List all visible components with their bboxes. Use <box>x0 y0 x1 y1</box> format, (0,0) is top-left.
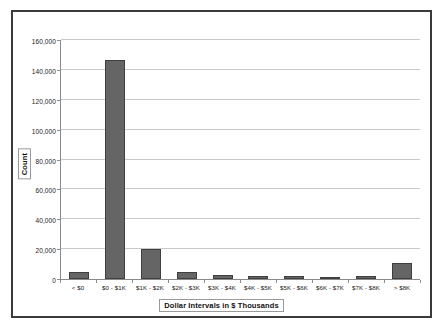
bar-slot <box>384 41 420 279</box>
bar[interactable] <box>284 276 304 279</box>
bar-slot <box>205 41 241 279</box>
x-axis-tick-label: < $0 <box>60 284 96 291</box>
x-axis-tick-mark <box>312 280 313 283</box>
plot-area <box>60 41 420 280</box>
bar-slot <box>169 41 205 279</box>
bar[interactable] <box>356 276 376 279</box>
x-axis-tick-label: $4K - $5K <box>240 284 276 291</box>
x-axis-tick-label: $3K - $4K <box>204 284 240 291</box>
bar-slot <box>133 41 169 279</box>
x-axis-title: Dollar Intervals in $ Thousands <box>13 299 430 312</box>
gridline <box>61 39 420 40</box>
x-axis-tick-mark <box>168 280 169 283</box>
bar-slot <box>348 41 384 279</box>
bar-slot <box>97 41 133 279</box>
bar[interactable] <box>69 272 89 279</box>
bar[interactable] <box>248 276 268 279</box>
bar-slot <box>312 41 348 279</box>
x-axis-tick-mark <box>204 280 205 283</box>
x-axis-tick-mark <box>96 280 97 283</box>
x-axis-tick-mark <box>348 280 349 283</box>
chart-frame: 020,00040,00060,00080,000100,000120,0001… <box>11 10 432 318</box>
x-axis-tick-mark <box>132 280 133 283</box>
bar[interactable] <box>392 263 412 279</box>
y-axis-title: Count <box>18 149 31 180</box>
bar-slot <box>276 41 312 279</box>
bar[interactable] <box>320 277 340 279</box>
x-axis-tick-mark <box>60 280 61 283</box>
bar-series <box>61 41 420 279</box>
x-axis-tick-labels: < $0$0 - $1K$1K - $2K$2K - $3K$3K - $4K$… <box>60 284 420 291</box>
x-axis-tick-label: > $8K <box>384 284 420 291</box>
x-axis-title-label: Dollar Intervals in $ Thousands <box>159 299 283 312</box>
x-axis-tick-label: $0 - $1K <box>96 284 132 291</box>
bar[interactable] <box>105 60 125 279</box>
x-axis-tick-mark <box>420 280 421 283</box>
bar[interactable] <box>141 249 161 279</box>
x-axis-tick-label: $2K - $3K <box>168 284 204 291</box>
x-axis-tick-label: $5K - $6K <box>276 284 312 291</box>
bar[interactable] <box>177 272 197 279</box>
bar-slot <box>61 41 97 279</box>
x-axis-tick-mark <box>240 280 241 283</box>
x-axis-tick-label: $1K - $2K <box>132 284 168 291</box>
x-axis-tick-label: $7K - $8K <box>348 284 384 291</box>
bar-slot <box>241 41 277 279</box>
x-axis-tick-mark <box>276 280 277 283</box>
bar[interactable] <box>213 275 233 279</box>
x-axis-tick-mark <box>384 280 385 283</box>
y-axis-title-label: Count <box>18 149 31 180</box>
x-axis-tick-label: $6K - $7K <box>312 284 348 291</box>
